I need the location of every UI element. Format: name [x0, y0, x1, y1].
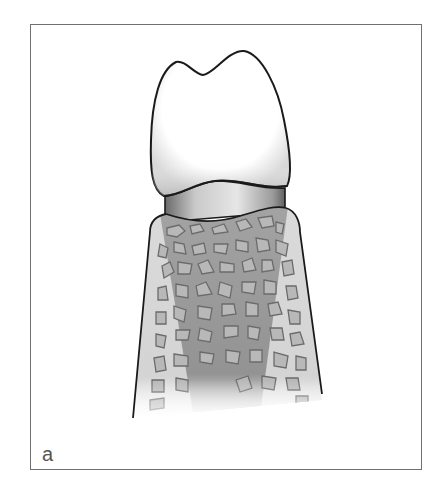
- panel-label: a: [42, 444, 53, 464]
- tooth-crown: [151, 51, 290, 196]
- alveolar-bone: [120, 206, 340, 430]
- tooth-illustration: [0, 0, 446, 496]
